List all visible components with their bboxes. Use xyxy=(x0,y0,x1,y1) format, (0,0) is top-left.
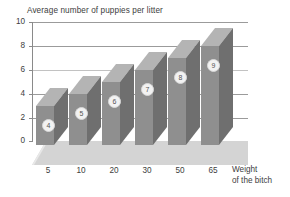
x-tick-label-4: 30 xyxy=(135,166,159,175)
x-tick-label-1: 5 xyxy=(36,166,60,175)
x-axis-title-line2: of the bitch xyxy=(232,175,272,186)
bar-value-label-4: 7 xyxy=(141,83,154,96)
x-tick-label-5: 50 xyxy=(168,166,192,175)
bar-3d-6[interactable] xyxy=(201,28,247,158)
x-tick-label-2: 10 xyxy=(69,166,93,175)
x-axis-title-line1: Weight xyxy=(232,164,272,175)
x-tick-label-3: 20 xyxy=(102,166,126,175)
chart-container: Average number of puppies per litter 10 … xyxy=(0,0,290,197)
bar-value-label-3: 6 xyxy=(108,95,121,108)
bar-value-label-6: 9 xyxy=(207,59,220,72)
x-tick-label-6: 65 xyxy=(201,166,225,175)
bar-value-label-2: 5 xyxy=(75,107,88,120)
x-axis-title: Weight of the bitch xyxy=(232,164,272,186)
bar-value-label-1: 4 xyxy=(42,119,55,132)
bar-value-label-5: 8 xyxy=(174,71,187,84)
